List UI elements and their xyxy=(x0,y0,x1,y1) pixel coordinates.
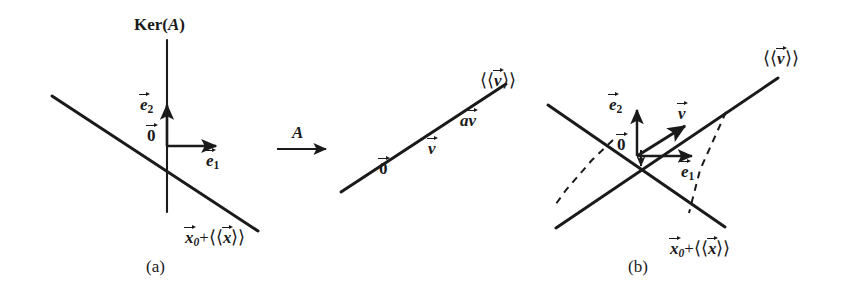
dashed-arrow-left-b xyxy=(586,160,600,172)
span-v-label-b: ⟨⟨v⟩⟩ xyxy=(763,50,799,68)
basis-e1-label-a: e1 xyxy=(206,152,219,172)
origin-label-a: 0 xyxy=(147,127,156,144)
span-v-line-b xyxy=(556,78,778,228)
kernel-label-arg: A xyxy=(168,15,179,34)
image-line-mid xyxy=(341,84,506,192)
caption-b: (b) xyxy=(628,258,648,275)
vector-v-label-mid: v xyxy=(428,140,436,157)
map-arrow-label-A: A xyxy=(292,124,303,141)
dashed-projection-left-b xyxy=(553,140,613,208)
basis-e2-label-a: e2 xyxy=(140,96,153,116)
vector-v-b xyxy=(637,126,685,156)
span-v-label-mid: ⟨⟨v⟩⟩ xyxy=(480,72,516,90)
origin-label-mid: 0 xyxy=(379,160,388,177)
affine-line-a xyxy=(52,96,258,231)
caption-a: (a) xyxy=(146,258,165,275)
basis-e1-label-b: e1 xyxy=(681,163,694,183)
kernel-label-a: Ker(A) xyxy=(134,16,185,33)
affine-set-label-a: x0+⟨⟨x⟩⟩ xyxy=(185,229,245,249)
vector-av-label-mid: av xyxy=(460,112,476,129)
affine-set-label-b: x0+⟨⟨x⟩⟩ xyxy=(670,240,730,260)
figure-root: Ker(A) e2 0 e1 x0+⟨⟨x⟩⟩ (a) A 0 v av ⟨⟨v… xyxy=(0,0,850,293)
basis-e2-label-b: e2 xyxy=(609,96,622,116)
vector-v-label-b: v xyxy=(678,105,686,122)
origin-label-b: 0 xyxy=(617,136,626,153)
